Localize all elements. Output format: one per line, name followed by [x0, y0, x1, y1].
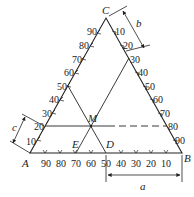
svg-text:10: 10: [26, 136, 36, 147]
vertex-a-label: A: [21, 157, 29, 169]
dimension-b-label: b: [136, 17, 142, 29]
svg-text:20: 20: [34, 121, 44, 132]
svg-text:10: 10: [115, 26, 125, 37]
svg-text:40: 40: [49, 94, 59, 105]
svg-text:70: 70: [71, 158, 81, 169]
svg-text:70: 70: [160, 108, 170, 119]
svg-text:30: 30: [42, 108, 52, 119]
point-m-label: M: [87, 112, 98, 124]
dim-b-top: [109, 6, 127, 16]
svg-text:60: 60: [64, 67, 74, 78]
ternary-diagram: 90 80 70 60 50 40 30 20 10 10 20 30 40 5…: [0, 0, 194, 197]
svg-text:80: 80: [56, 158, 66, 169]
dimension-c-label: c: [12, 121, 17, 133]
svg-text:60: 60: [153, 94, 163, 105]
vertex-b-label: B: [184, 152, 191, 164]
svg-text:40: 40: [138, 67, 148, 78]
svg-text:20: 20: [146, 158, 156, 169]
svg-text:50: 50: [145, 81, 155, 92]
svg-text:90: 90: [175, 135, 185, 146]
ac-tick-labels: 10 20 30 40 50 60 70 80 90: [26, 26, 97, 147]
triangle-outline: [30, 18, 182, 153]
svg-text:50: 50: [57, 81, 67, 92]
svg-text:80: 80: [168, 121, 178, 132]
point-d-label: D: [105, 138, 114, 150]
svg-text:50: 50: [101, 158, 111, 169]
svg-text:70: 70: [72, 54, 82, 65]
svg-text:10: 10: [161, 158, 171, 169]
svg-text:80: 80: [79, 40, 89, 51]
svg-text:90: 90: [87, 26, 97, 37]
svg-text:30: 30: [131, 158, 141, 169]
ab-tick-labels: 90 80 70 60 50 40 30 20 10: [41, 158, 171, 169]
point-e-label: E: [71, 138, 79, 150]
bc-tick-labels: 10 20 30 40 50 60 70 80 90: [115, 26, 185, 146]
svg-text:30: 30: [130, 54, 140, 65]
svg-text:40: 40: [116, 158, 126, 169]
svg-text:60: 60: [86, 158, 96, 169]
point-m: [90, 125, 92, 127]
vertex-c-label: C: [102, 4, 110, 16]
svg-text:90: 90: [41, 158, 51, 169]
svg-text:20: 20: [123, 40, 133, 51]
dimension-a-label: a: [140, 180, 146, 192]
